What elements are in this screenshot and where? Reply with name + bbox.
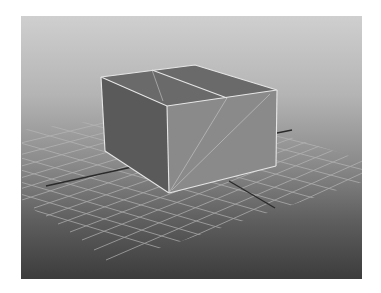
scene	[21, 16, 362, 279]
3d-viewport[interactable]: 3D perspective viewport	[21, 16, 362, 279]
